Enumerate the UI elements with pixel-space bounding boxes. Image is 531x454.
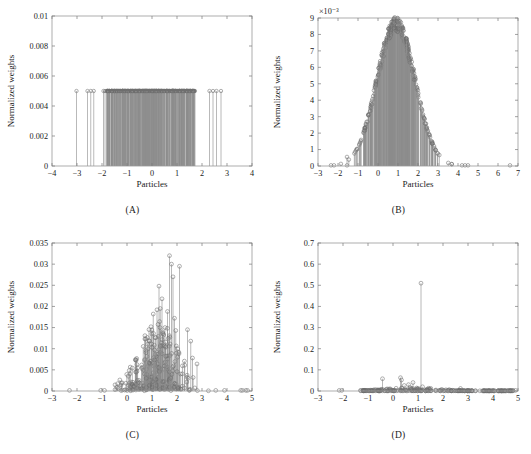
x-tick-label: −3	[73, 169, 82, 178]
y-tick-label: 0.025	[30, 281, 48, 290]
x-tick-label: 0	[125, 394, 129, 403]
x-tick-label: −3	[314, 394, 323, 403]
panel-d: −3−2−101234500.10.20.30.40.50.60.7Partic…	[266, 227, 531, 454]
y-tick-label: 0	[44, 387, 48, 396]
panel-a-caption: (A)	[0, 205, 265, 215]
x-tick-label: −1	[364, 394, 373, 403]
y-tick-label: 0.6	[304, 260, 314, 269]
y-tick-label: 4	[310, 96, 314, 105]
x-tick-label: 3	[466, 394, 470, 403]
x-tick-label: 3	[436, 169, 440, 178]
x-tick-label: 2	[200, 169, 204, 178]
x-tick-label: 1	[150, 394, 154, 403]
stem-series	[337, 281, 517, 392]
x-tick-label: 4	[456, 169, 460, 178]
y-tick-label: 5	[310, 80, 314, 89]
x-tick-label: 1	[175, 169, 179, 178]
y-tick-label: 3	[310, 113, 314, 122]
y-axis-title: Normalized weights	[272, 280, 282, 353]
stem-series	[329, 16, 512, 168]
x-tick-label: −2	[334, 169, 343, 178]
y-tick-label: 2	[310, 129, 314, 138]
panel-a-plot: −4−3−2−10123400.0020.0040.0060.0080.01Pa…	[0, 0, 265, 205]
y-tick-label: 0.02	[34, 302, 48, 311]
x-tick-label: −2	[98, 169, 107, 178]
axes-frame	[318, 243, 518, 391]
x-tick-label: −3	[314, 169, 323, 178]
x-tick-label: 3	[225, 169, 229, 178]
x-tick-label: 5	[476, 169, 480, 178]
y-tick-label: 0.3	[304, 323, 314, 332]
y-tick-label: 0.008	[30, 42, 48, 51]
y-tick-label: 0.015	[30, 323, 48, 332]
y-tick-label: 0	[310, 387, 314, 396]
y-tick-label: 0	[44, 162, 48, 171]
x-tick-label: 6	[496, 169, 500, 178]
x-tick-label: 4	[491, 394, 495, 403]
x-axis-title: Particles	[137, 179, 168, 189]
y-tick-label: 0.5	[304, 281, 314, 290]
y-tick-label: 6	[310, 63, 314, 72]
panel-b-plot: −3−2−1012345670123456789×10⁻³ParticlesNo…	[266, 0, 531, 205]
y-tick-label: 0.005	[30, 366, 48, 375]
y-axis-title: Normalized weights	[6, 280, 16, 353]
x-tick-label: 2	[441, 394, 445, 403]
x-tick-label: 2	[175, 394, 179, 403]
x-tick-label: 5	[250, 394, 254, 403]
y-tick-label: 0.035	[30, 239, 48, 248]
x-tick-label: 0	[376, 169, 380, 178]
x-tick-label: −2	[339, 394, 348, 403]
panel-b-caption: (B)	[266, 205, 531, 215]
x-tick-label: 4	[225, 394, 229, 403]
x-axis-title: Particles	[403, 404, 434, 414]
x-tick-label: −3	[48, 394, 57, 403]
y-tick-label: 0.004	[30, 102, 48, 111]
panel-b: −3−2−1012345670123456789×10⁻³ParticlesNo…	[266, 0, 531, 227]
x-tick-label: 4	[250, 169, 254, 178]
stem-series	[75, 89, 223, 166]
y-axis-title: Normalized weights	[6, 54, 16, 127]
panel-c-caption: (C)	[0, 430, 265, 440]
x-tick-label: −4	[48, 169, 57, 178]
panel-c: −3−2−101234500.0050.010.0150.020.0250.03…	[0, 227, 265, 454]
y-tick-label: 9	[310, 14, 314, 23]
x-tick-label: 1	[396, 169, 400, 178]
x-axis-title: Particles	[403, 179, 434, 189]
y-tick-label: 0.1	[304, 366, 314, 375]
y-tick-label: 0.01	[34, 345, 48, 354]
stem-series	[68, 254, 250, 393]
y-tick-label: 1	[310, 145, 314, 154]
panel-c-plot: −3−2−101234500.0050.010.0150.020.0250.03…	[0, 227, 265, 430]
panel-d-plot: −3−2−101234500.10.20.30.40.50.60.7Partic…	[266, 227, 531, 430]
x-tick-label: −1	[98, 394, 107, 403]
y-tick-label: 0.4	[304, 302, 314, 311]
panel-d-caption: (D)	[266, 430, 531, 440]
axis-multiplier-label: ×10⁻³	[319, 7, 339, 16]
y-tick-label: 0.006	[30, 72, 48, 81]
x-axis-title: Particles	[137, 404, 168, 414]
x-tick-label: 5	[516, 394, 520, 403]
y-tick-label: 8	[310, 30, 314, 39]
y-tick-label: 0.002	[30, 132, 48, 141]
y-axis-title: Normalized weights	[272, 55, 282, 128]
x-tick-label: 0	[391, 394, 395, 403]
x-tick-label: −1	[123, 169, 132, 178]
y-tick-label: 0.03	[34, 260, 48, 269]
x-tick-label: −1	[354, 169, 363, 178]
x-tick-label: 1	[416, 394, 420, 403]
y-tick-label: 7	[310, 47, 314, 56]
y-tick-label: 0.01	[34, 12, 48, 21]
y-tick-label: 0	[310, 162, 314, 171]
x-tick-label: −2	[73, 394, 82, 403]
y-tick-label: 0.2	[304, 345, 314, 354]
x-tick-label: 0	[150, 169, 154, 178]
x-tick-label: 3	[200, 394, 204, 403]
x-tick-label: 7	[516, 169, 520, 178]
y-tick-label: 0.7	[304, 239, 314, 248]
panel-a: −4−3−2−10123400.0020.0040.0060.0080.01Pa…	[0, 0, 265, 227]
particle-filter-weights-figure: −4−3−2−10123400.0020.0040.0060.0080.01Pa…	[0, 0, 531, 454]
x-tick-label: 2	[416, 169, 420, 178]
